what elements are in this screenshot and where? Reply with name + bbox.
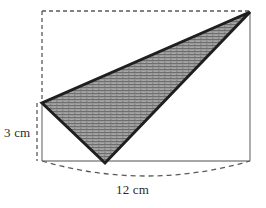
base-dashed-arc: [42, 161, 250, 176]
shaded-triangle: [42, 12, 250, 163]
geometry-figure: 3 cm 12 cm: [0, 0, 266, 208]
figure-canvas: [0, 0, 266, 208]
height-dimension-label: 3 cm: [4, 125, 30, 141]
base-dimension-label: 12 cm: [116, 182, 149, 198]
